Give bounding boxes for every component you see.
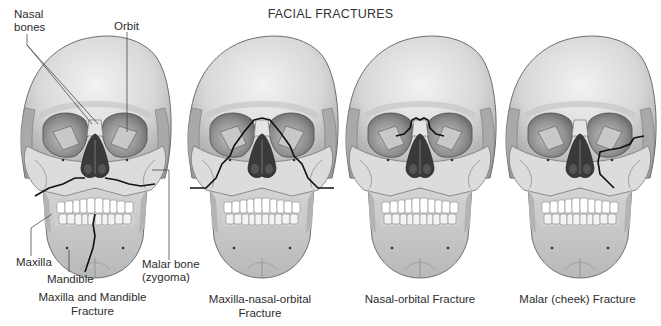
label-orbit: Orbit bbox=[114, 20, 139, 33]
label-maxilla: Maxilla bbox=[16, 256, 52, 269]
leader-malar-bone bbox=[152, 170, 169, 260]
label-leader-lines bbox=[0, 0, 661, 326]
leader-nasal-bones-1 bbox=[27, 45, 92, 124]
caption-nasal-orbital-fracture: Nasal-orbital Fracture bbox=[350, 292, 490, 306]
leader-nasal-bones-2 bbox=[27, 45, 98, 124]
caption-malar-cheek-fracture: Malar (cheek) Fracture bbox=[500, 292, 655, 306]
label-mandible: Mandible bbox=[47, 273, 94, 286]
caption-maxilla-nasal-orbital-fracture: Maxilla-nasal-orbital Fracture bbox=[190, 292, 330, 320]
caption-maxilla-mandible-fracture: Maxilla and Mandible Fracture bbox=[10, 290, 175, 318]
label-nasal-bones: Nasal bones bbox=[14, 8, 45, 34]
label-malar-bone: Malar bone (zygoma) bbox=[142, 258, 200, 284]
leader-maxilla bbox=[31, 214, 52, 256]
